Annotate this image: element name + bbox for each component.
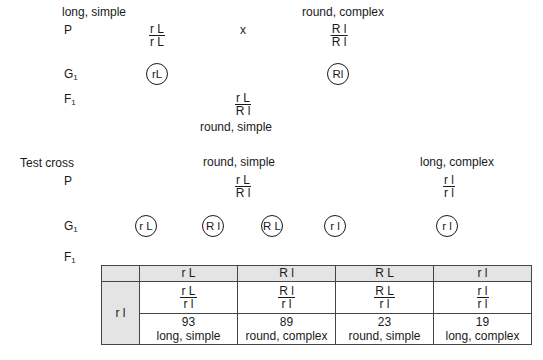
offspring-count: 93	[140, 315, 237, 329]
tc-gamete-parent2: r l	[436, 215, 458, 237]
genotype-bottom: r l	[380, 298, 390, 311]
offspring-count: 89	[238, 315, 335, 329]
tc-row-label-p: P	[64, 175, 72, 187]
punnett-header-cell: R L	[336, 266, 434, 282]
punnett-genotype-cell: R Lr l	[336, 282, 434, 314]
row-label-g1: G1	[64, 68, 78, 82]
cross-symbol: x	[240, 24, 246, 36]
tc-parent1-genotype: r L R l	[235, 174, 251, 200]
punnett-phenotype-cell: 89round, complex	[238, 314, 336, 345]
genotype-bottom: r l	[281, 298, 291, 311]
punnett-header-cell: r L	[140, 266, 238, 282]
gamete-parent2: Rl	[327, 63, 349, 85]
g-subscript: 1	[73, 73, 77, 82]
genotype-bottom: r l	[478, 298, 488, 311]
offspring-count: 23	[336, 315, 433, 329]
f1-phenotype: round, simple	[200, 121, 272, 133]
punnett-square: r L R l R L r l r l r Lr l R lr l R Lr l…	[101, 265, 532, 345]
f-subscript: 1	[71, 256, 75, 265]
punnett-genotype-cell: R lr l	[238, 282, 336, 314]
tc-gamete-4: r l	[324, 215, 346, 237]
tc-parent1-phenotype: round, simple	[203, 156, 275, 168]
tc-parent2-genotype: r l r l	[443, 174, 455, 200]
genotype-bottom: R l	[332, 36, 347, 49]
punnett-phenotype-cell: 93long, simple	[140, 314, 238, 345]
gamete-parent1: rL	[146, 63, 168, 85]
f-subscript: 1	[71, 98, 75, 107]
genotype-bottom: r l	[444, 187, 454, 200]
punnett-genotype-cell: r lr l	[434, 282, 532, 314]
punnett-phenotype-cell: 23round, simple	[336, 314, 434, 345]
g-subscript: 1	[73, 225, 77, 234]
tc-parent2-phenotype: long, complex	[420, 156, 494, 168]
offspring-phenotype: long, complex	[434, 329, 531, 343]
punnett-row-gamete: r l	[102, 282, 140, 345]
tc-gamete-2: R l	[202, 215, 224, 237]
punnett-genotype-row: r l r Lr l R lr l R Lr l r lr l	[102, 282, 532, 314]
g-letter: G	[64, 67, 73, 81]
parent2-phenotype: round, complex	[302, 6, 384, 18]
row-label-p: P	[64, 24, 72, 36]
tc-gamete-1: r L	[135, 215, 157, 237]
offspring-phenotype: round, simple	[336, 329, 433, 343]
offspring-phenotype: round, complex	[238, 329, 335, 343]
row-label-f1: F1	[64, 93, 76, 107]
offspring-count: 19	[434, 315, 531, 329]
punnett-header-row: r L R l R L r l	[102, 266, 532, 282]
test-cross-title: Test cross	[20, 157, 74, 169]
punnett-genotype-cell: r Lr l	[140, 282, 238, 314]
parent2-genotype: R l R l	[331, 23, 348, 49]
genotype-bottom: R l	[236, 105, 251, 118]
offspring-phenotype: long, simple	[140, 329, 237, 343]
f1-genotype: r L R l	[235, 92, 251, 118]
tc-row-label-g1: G1	[64, 220, 78, 234]
punnett-corner	[102, 266, 140, 282]
g-letter: G	[64, 219, 73, 233]
genotype-bottom: r L	[150, 36, 164, 49]
punnett-phenotype-cell: 19long, complex	[434, 314, 532, 345]
punnett-phenotype-row: 93long, simple 89round, complex 23round,…	[102, 314, 532, 345]
genotype-bottom: r l	[183, 298, 193, 311]
parent1-genotype: r L r L	[149, 23, 165, 49]
tc-row-label-f1: F1	[64, 251, 76, 265]
genotype-bottom: R l	[236, 187, 251, 200]
parent1-phenotype: long, simple	[62, 6, 126, 18]
tc-gamete-3: R L	[261, 215, 283, 237]
punnett-header-cell: R l	[238, 266, 336, 282]
punnett-header-cell: r l	[434, 266, 532, 282]
